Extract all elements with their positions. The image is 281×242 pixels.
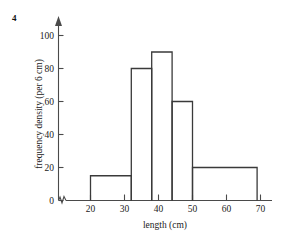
y-axis [55,16,62,200]
y-tick-label: 100 [40,31,55,41]
histogram-plot: 0 20 40 60 80 100 20 30 40 50 60 70 [0,0,281,242]
y-tick-label: 0 [49,196,54,206]
y-axis-title: frequency density (per 6 cm) [34,59,45,169]
x-tick-label: 60 [222,204,232,214]
y-tick-marks [59,36,64,201]
y-tick-label: 40 [45,130,55,140]
histogram-bar [131,69,151,201]
histogram-bar [172,102,192,201]
y-tick-label: 80 [45,64,55,74]
histogram-figure: 4 0 20 40 60 80 100 [0,0,281,242]
histogram-bar [193,168,258,201]
y-axis-arrow-icon [55,16,62,26]
y-tick-label: 60 [45,97,55,107]
x-tick-labels: 20 30 40 50 60 70 [86,204,266,214]
y-tick-label: 20 [45,163,55,173]
histogram-bar [152,52,172,201]
x-tick-label: 30 [120,204,130,214]
x-tick-marks [91,195,261,201]
x-tick-label: 70 [256,204,266,214]
x-axis-break-icon [59,197,67,204]
x-tick-label: 50 [188,204,198,214]
x-axis-title: length (cm) [143,220,187,231]
histogram-bar [91,176,132,201]
x-tick-label: 20 [86,204,96,214]
histogram-bars [91,52,258,201]
x-tick-label: 40 [154,204,164,214]
